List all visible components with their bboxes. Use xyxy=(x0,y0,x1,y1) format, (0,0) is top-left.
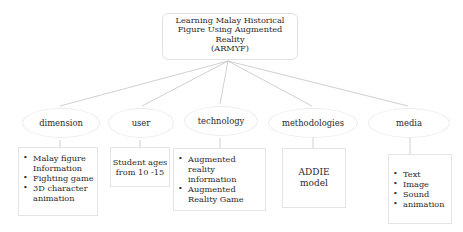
leaf-technology: Augmented reality information Augmented … xyxy=(173,148,266,211)
node-user: user xyxy=(108,108,174,138)
node-dimension-label: dimension xyxy=(39,118,83,128)
media-item: animation xyxy=(389,199,451,209)
node-user-label: user xyxy=(132,118,151,128)
technology-item: Augmented Reality Game xyxy=(174,184,262,204)
leaf-methodologies: ADDIE model xyxy=(282,148,346,208)
dimension-item: Malay figure Information xyxy=(19,153,97,173)
root-node-armyf: Learning Malay Historical Figure Using A… xyxy=(162,13,298,60)
user-text-line-1: Student ages xyxy=(113,157,168,167)
methodologies-text-line-2: model xyxy=(300,178,328,189)
methodologies-text-line-1: ADDIE xyxy=(298,167,329,178)
node-dimension: dimension xyxy=(22,108,100,138)
node-media: media xyxy=(368,108,450,138)
node-media-label: media xyxy=(396,118,422,128)
media-item: Sound xyxy=(389,189,451,199)
leaf-dimension: Malay figure Information Fighting game 3… xyxy=(18,147,98,216)
media-item: Image xyxy=(389,179,451,189)
technology-item: Augmented reality information xyxy=(174,154,262,184)
media-item: Text xyxy=(389,169,451,179)
dimension-item: 3D character animation xyxy=(19,183,97,203)
root-title-line-4: (ARMYF) xyxy=(163,44,297,53)
dimension-item: Fighting game xyxy=(19,173,97,183)
leaf-media: Text Image Sound animation xyxy=(388,154,452,224)
node-technology-label: technology xyxy=(198,116,245,126)
user-text-line-2: from 10 -15 xyxy=(116,167,164,177)
node-methodologies: methodologies xyxy=(268,108,358,138)
node-methodologies-label: methodologies xyxy=(282,118,344,128)
node-technology: technology xyxy=(184,106,258,136)
leaf-user: Student ages from 10 -15 xyxy=(110,147,170,187)
